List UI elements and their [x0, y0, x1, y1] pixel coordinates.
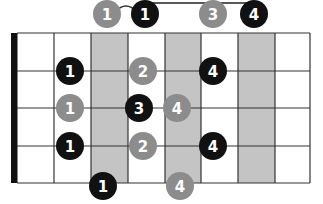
note-marker: 4	[163, 94, 191, 122]
finger-number: 4	[208, 138, 218, 156]
finger-number: 4	[249, 6, 259, 24]
note-marker: 4	[240, 0, 268, 28]
note-marker: 1	[93, 0, 121, 28]
finger-number: 4	[208, 63, 218, 81]
finger-number: 1	[65, 100, 75, 118]
finger-number: 4	[172, 100, 182, 118]
note-marker: 4	[166, 172, 194, 200]
note-marker: 1	[56, 57, 84, 85]
finger-number: 1	[102, 6, 112, 24]
fretboard-diagram: 113412413412414	[0, 0, 323, 204]
finger-number: 1	[65, 63, 75, 81]
finger-number: 2	[138, 138, 148, 156]
note-marker: 1	[89, 172, 117, 200]
finger-number: 1	[140, 6, 150, 24]
note-markers: 113412413412414	[56, 0, 268, 200]
finger-number: 3	[208, 6, 218, 24]
note-marker: 1	[56, 94, 84, 122]
note-marker: 2	[129, 132, 157, 160]
note-marker: 2	[129, 57, 157, 85]
finger-number: 4	[175, 178, 185, 196]
note-marker: 4	[199, 57, 227, 85]
finger-number: 3	[134, 100, 144, 118]
finger-number: 1	[65, 138, 75, 156]
finger-number: 1	[98, 178, 108, 196]
nut	[11, 33, 17, 183]
note-marker: 1	[131, 0, 159, 28]
note-marker: 3	[199, 0, 227, 28]
note-marker: 1	[56, 132, 84, 160]
note-marker: 3	[125, 94, 153, 122]
finger-number: 2	[138, 63, 148, 81]
note-marker: 4	[199, 132, 227, 160]
